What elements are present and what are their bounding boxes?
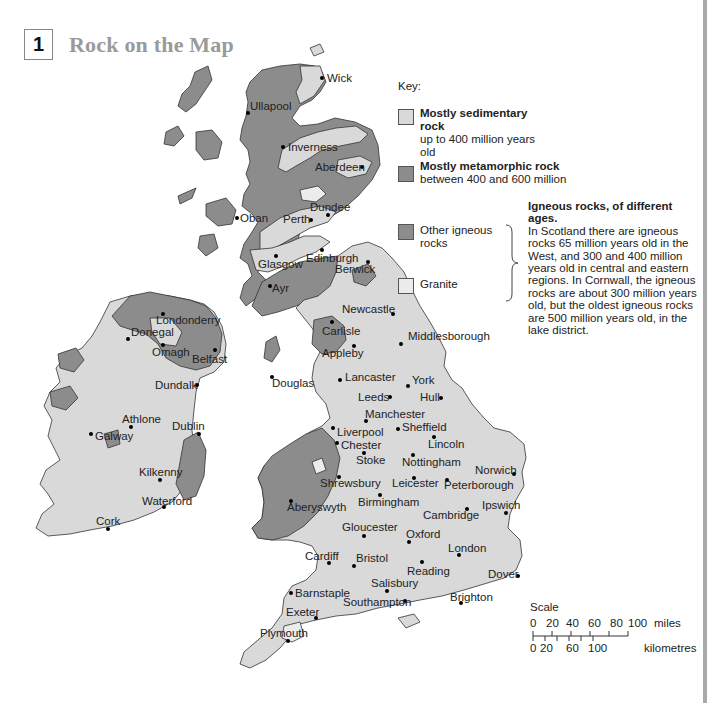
city-nottingham: Nottingham bbox=[402, 453, 461, 468]
svg-text:Exeter: Exeter bbox=[286, 606, 319, 618]
city-dundalk: Dundalk bbox=[155, 379, 199, 391]
brace-icon bbox=[504, 224, 520, 302]
svg-text:Belfast: Belfast bbox=[192, 353, 228, 365]
city-leicester: Leicester bbox=[392, 476, 439, 489]
city-newcastle: Newcastle bbox=[342, 303, 395, 316]
city-londonderry: Londonderry bbox=[156, 312, 221, 326]
miles-tick-label: 80 bbox=[610, 617, 623, 629]
km-unit: kilometres bbox=[644, 642, 697, 654]
scale-ruler bbox=[533, 631, 628, 641]
city-lancaster: Lancaster bbox=[338, 371, 396, 383]
city-southampton: Southampton bbox=[343, 596, 411, 608]
key-label-metamorphic: Mostly metamorphic rock bbox=[420, 160, 559, 172]
key-title: Key: bbox=[398, 80, 421, 92]
svg-text:Carlisle: Carlisle bbox=[322, 325, 360, 337]
city-perth: Perth bbox=[283, 213, 313, 225]
miles-unit: miles bbox=[654, 617, 681, 629]
svg-text:Salisbury: Salisbury bbox=[371, 577, 419, 589]
svg-text:Ayr: Ayr bbox=[272, 282, 289, 294]
city-birmingham: Birmingham bbox=[358, 493, 419, 508]
city-norwich: Norwich bbox=[475, 464, 517, 476]
svg-text:Omagh: Omagh bbox=[152, 346, 190, 358]
km-tick-label: 100 bbox=[588, 642, 607, 654]
city-galway: Galway bbox=[89, 430, 134, 442]
miles-tick-label: 0 bbox=[530, 617, 536, 629]
svg-text:Lincoln: Lincoln bbox=[428, 438, 464, 450]
km-tick-label: 20 bbox=[540, 642, 553, 654]
sedimentary-swatch bbox=[398, 109, 414, 125]
svg-text:Southampton: Southampton bbox=[343, 596, 411, 608]
city-stoke: Stoke bbox=[356, 451, 385, 466]
svg-text:Dublin: Dublin bbox=[172, 420, 205, 432]
key-item-sedimentary: Mostly sedimentary rockup to 400 million… bbox=[398, 107, 538, 159]
svg-text:York: York bbox=[412, 374, 435, 386]
key-item-igneous: Other igneous rocks bbox=[398, 222, 518, 250]
miles-tick-label: 40 bbox=[566, 617, 579, 629]
city-barnstaple: Barnstaple bbox=[289, 587, 350, 599]
svg-text:Cardiff: Cardiff bbox=[305, 550, 339, 562]
svg-text:Ullapool: Ullapool bbox=[250, 100, 292, 112]
svg-text:Wick: Wick bbox=[327, 72, 352, 84]
svg-text:Cambridge: Cambridge bbox=[423, 509, 479, 521]
svg-text:Nottingham: Nottingham bbox=[402, 456, 461, 468]
svg-text:Chester: Chester bbox=[341, 439, 381, 451]
svg-text:Sheffield: Sheffield bbox=[402, 421, 447, 433]
svg-text:Peterborough: Peterborough bbox=[444, 479, 514, 491]
svg-text:Donegal: Donegal bbox=[131, 326, 174, 338]
scale-bar: Scale 0 20 40 60 80 100 miles 0 20 60 10… bbox=[530, 601, 724, 661]
svg-text:Brighton: Brighton bbox=[450, 591, 493, 603]
svg-text:Galway: Galway bbox=[95, 430, 134, 442]
svg-text:Leeds: Leeds bbox=[358, 391, 390, 403]
city-cambridge: Cambridge bbox=[423, 507, 479, 521]
uk-ireland-rock-map: Wick Ullapool Inverness Aberdeen Dundee … bbox=[0, 0, 724, 703]
key-label-granite: Granite bbox=[420, 278, 458, 291]
svg-text:Reading: Reading bbox=[407, 565, 450, 577]
city-omagh: Omagh bbox=[152, 343, 190, 358]
svg-text:Cork: Cork bbox=[96, 515, 121, 527]
svg-text:Hull: Hull bbox=[420, 391, 440, 403]
key-sublabel-metamorphic: between 400 and 600 million bbox=[420, 173, 566, 185]
svg-text:Bristol: Bristol bbox=[356, 552, 388, 564]
miles-tick-label: 20 bbox=[546, 617, 559, 629]
city-chester: Chester bbox=[335, 439, 381, 451]
svg-text:Oban: Oban bbox=[240, 212, 268, 224]
svg-text:Birmingham: Birmingham bbox=[358, 496, 419, 508]
km-tick-label: 60 bbox=[566, 642, 579, 654]
svg-text:Stoke: Stoke bbox=[356, 454, 385, 466]
city-ayr: Ayr bbox=[268, 282, 289, 294]
igneous-note: Igneous rocks, of different ages. In Sco… bbox=[528, 200, 698, 336]
page-edge-bar bbox=[703, 0, 707, 703]
svg-text:Shrewsbury: Shrewsbury bbox=[320, 477, 381, 489]
note-body: In Scotland there are igneous rocks 65 m… bbox=[528, 225, 697, 336]
city-waterford: Waterford bbox=[142, 495, 192, 509]
svg-text:Manchester: Manchester bbox=[365, 408, 425, 420]
svg-text:Kilkenny: Kilkenny bbox=[139, 466, 183, 478]
svg-text:Plymouth: Plymouth bbox=[260, 627, 308, 639]
svg-text:Dundee: Dundee bbox=[310, 201, 350, 213]
svg-text:Waterford: Waterford bbox=[142, 495, 192, 507]
city-brighton: Brighton bbox=[450, 591, 493, 605]
city-douglas: Douglas bbox=[270, 375, 314, 389]
igneous-swatch bbox=[398, 224, 414, 240]
city-leeds: Leeds bbox=[358, 391, 392, 403]
city-inverness: Inverness bbox=[281, 141, 338, 153]
svg-text:Liverpool: Liverpool bbox=[337, 426, 384, 438]
svg-text:Oxford: Oxford bbox=[406, 528, 441, 540]
city-peterborough: Peterborough bbox=[444, 478, 514, 491]
svg-text:Londonderry: Londonderry bbox=[156, 314, 221, 326]
city-shrewsbury: Shrewsbury bbox=[320, 475, 381, 489]
svg-text:Middlesborough: Middlesborough bbox=[408, 330, 490, 342]
svg-text:Aberyswyth: Aberyswyth bbox=[287, 501, 346, 513]
city-sheffield: Sheffield bbox=[396, 421, 447, 433]
city-exeter: Exeter bbox=[286, 606, 319, 620]
city-oban: Oban bbox=[235, 212, 268, 224]
svg-text:Perth: Perth bbox=[283, 213, 311, 225]
key-label-sedimentary: Mostly sedimentary rock bbox=[420, 107, 527, 132]
city-aberdeen: Aberdeen bbox=[315, 161, 365, 173]
scale-graphic: 0 20 40 60 80 100 miles 0 20 60 100 kilo… bbox=[530, 617, 724, 661]
svg-text:London: London bbox=[448, 542, 486, 554]
svg-text:Ipswich: Ipswich bbox=[482, 499, 520, 511]
svg-text:Dundalk: Dundalk bbox=[155, 379, 197, 391]
key-sublabel-sedimentary: up to 400 million years old bbox=[420, 133, 535, 158]
svg-text:Douglas: Douglas bbox=[272, 377, 314, 389]
